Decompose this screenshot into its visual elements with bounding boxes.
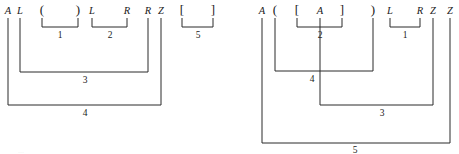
symbol-left-2: (: [40, 2, 44, 17]
symbol-right-1: (: [273, 2, 277, 17]
symbol-right-0: A: [258, 5, 266, 16]
symbol-right-2: [: [295, 2, 299, 17]
symbol-right-3: A: [316, 5, 324, 16]
bracket-label-left-5: 5: [196, 30, 201, 40]
symbol-left-9: ]: [211, 2, 215, 17]
diagram-right: A([A])LRZZ21435: [258, 2, 453, 154]
diagram-left: AL()LRRZ[]12534: [4, 2, 215, 118]
bracket-label-left-3: 3: [83, 75, 88, 85]
partial-caption: ...: [18, 147, 24, 154]
symbol-right-4: ]: [340, 2, 344, 17]
symbol-right-5: ): [371, 2, 375, 17]
symbol-left-4: L: [88, 5, 95, 16]
symbol-left-3: ): [76, 2, 80, 17]
symbol-left-7: Z: [158, 5, 164, 16]
symbol-left-1: L: [16, 5, 23, 16]
bracket-right-level-3: [320, 18, 433, 105]
bracket-label-left-4: 4: [83, 108, 88, 118]
bracket-label-right-5: 5: [353, 145, 358, 154]
bracket-label-left-2: 2: [108, 30, 113, 40]
symbol-left-5: R: [123, 5, 131, 16]
bracket-left-level-4: [8, 18, 161, 105]
bracket-diagram-figure: AL()LRRZ[]12534A([A])LRZZ21435: [0, 0, 459, 154]
symbol-left-0: A: [4, 5, 12, 16]
symbol-left-6: R: [144, 5, 152, 16]
bracket-left-level-5: [182, 18, 213, 27]
bracket-right-level-5: [262, 18, 450, 143]
bracket-left-level-2: [92, 18, 127, 27]
bracket-label-right-4: 4: [310, 74, 315, 84]
symbol-left-8: [: [180, 2, 184, 17]
bracket-right-level-1: [390, 18, 420, 27]
symbol-right-7: R: [416, 5, 424, 16]
bracket-left-level-1: [42, 18, 78, 27]
figure-canvas: AL()LRRZ[]12534A([A])LRZZ21435: [0, 0, 459, 154]
bracket-right-level-4: [275, 18, 373, 71]
bracket-left-level-3: [20, 18, 148, 72]
bracket-label-right-1: 1: [403, 30, 408, 40]
bracket-label-right-3: 3: [380, 108, 385, 118]
symbol-right-6: L: [386, 5, 393, 16]
bracket-label-left-1: 1: [58, 30, 63, 40]
symbol-right-9: Z: [447, 5, 453, 16]
symbol-right-8: Z: [430, 5, 436, 16]
